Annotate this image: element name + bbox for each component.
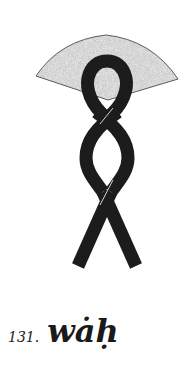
- wah-hieroglyph-icon: [0, 0, 189, 290]
- figure-number: 131.: [8, 329, 39, 345]
- transliteration-word: wȧḥ: [47, 312, 119, 350]
- figure-caption: 131. wȧḥ: [8, 312, 119, 350]
